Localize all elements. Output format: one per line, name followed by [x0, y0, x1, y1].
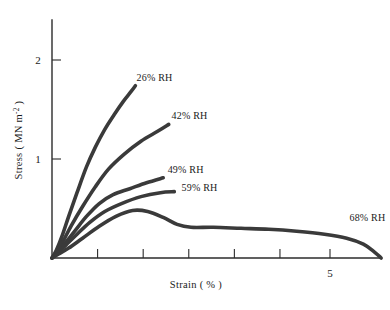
y-axis-title-suffix: ) [13, 100, 25, 107]
x-tick-label-5: 5 [327, 267, 333, 279]
chart-canvas: 12 5 26% RH42% RH49% RH59% RH68% RH Stra… [0, 0, 390, 310]
series-label-26-rh: 26% RH [137, 72, 173, 83]
y-axis-title: Stress ( MN m-2 ) [13, 100, 26, 179]
series-label-42-rh: 42% RH [172, 110, 208, 121]
curve-68-rh [52, 210, 381, 258]
x-axis-ticks: 5 [98, 249, 334, 279]
y-axis-ticks: 12 [35, 54, 61, 165]
data-curves [52, 86, 381, 258]
series-labels: 26% RH42% RH49% RH59% RH68% RH [137, 72, 386, 224]
y-tick-label-1: 1 [35, 153, 41, 165]
y-axis-title-prefix: Stress ( MN m [13, 114, 25, 179]
svg-text:Stress ( MN m-2 ): Stress ( MN m-2 ) [13, 100, 26, 179]
series-label-49-rh: 49% RH [168, 164, 204, 175]
stress-strain-chart: 12 5 26% RH42% RH49% RH59% RH68% RH Stra… [0, 0, 390, 310]
y-tick-label-2: 2 [35, 54, 41, 66]
series-label-68-rh: 68% RH [349, 212, 385, 223]
series-label-59-rh: 59% RH [182, 182, 218, 193]
x-axis-title: Strain ( % ) [170, 279, 222, 291]
